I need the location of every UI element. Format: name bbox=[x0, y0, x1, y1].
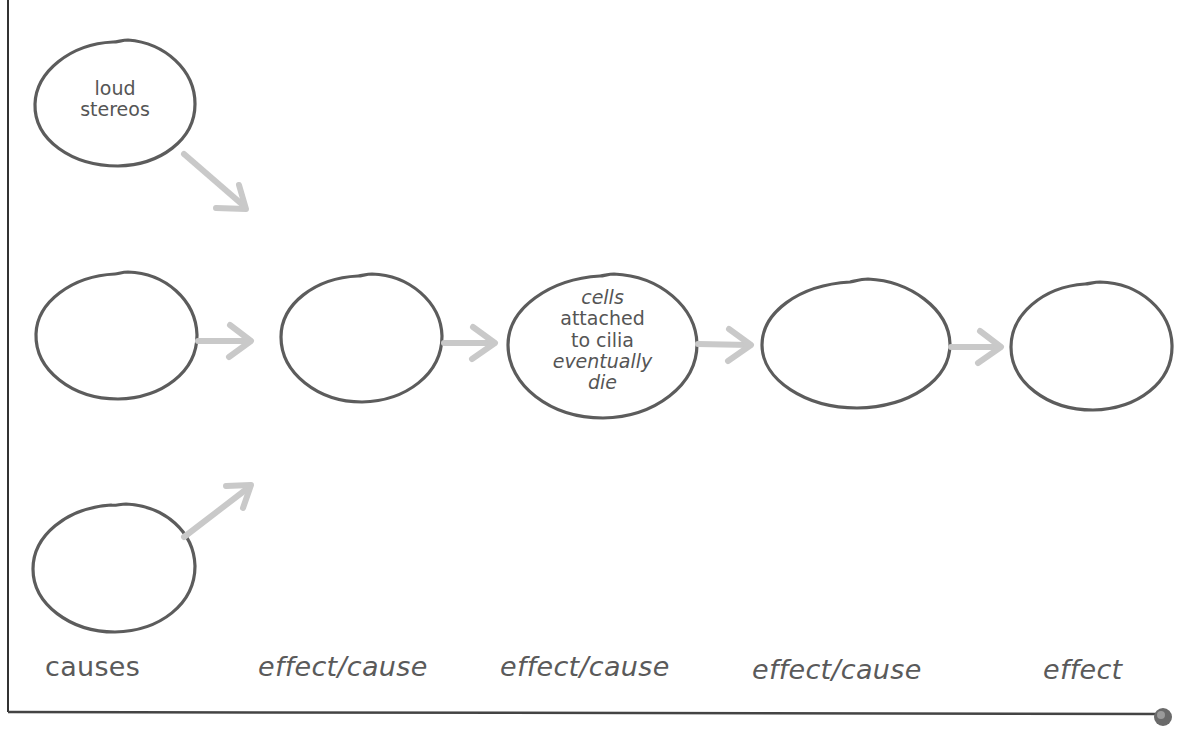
arrow-top-to-effect1 bbox=[184, 154, 244, 206]
node-effect-cause-3 bbox=[762, 279, 950, 408]
column-label-effect-cause-1: effect/cause bbox=[258, 651, 428, 682]
node-effect-cause-2-text: cells attached to cilia eventually die bbox=[520, 287, 685, 393]
node-effect-final bbox=[1011, 282, 1172, 410]
column-label-causes: causes bbox=[45, 651, 140, 682]
node-text-line: loud bbox=[55, 78, 175, 99]
column-label-effect-cause-2: effect/cause bbox=[500, 651, 670, 682]
node-cause-bottom bbox=[33, 504, 195, 632]
page-corner-dot-highlight bbox=[1157, 711, 1165, 719]
node-effect-cause-1 bbox=[281, 274, 442, 402]
column-label-effect-cause-3: effect/cause bbox=[752, 654, 922, 685]
column-label-effect: effect bbox=[1043, 654, 1122, 685]
node-text-line: attached bbox=[520, 308, 685, 329]
node-text-line: die bbox=[520, 372, 685, 393]
node-cause-middle bbox=[36, 272, 197, 399]
node-text-line: stereos bbox=[55, 99, 175, 120]
arrow-bottom-to-effect1 bbox=[184, 488, 248, 537]
node-text-line: cells bbox=[520, 287, 685, 308]
node-text-line: eventually bbox=[520, 351, 685, 372]
arrow-effect2-to-effect3 bbox=[698, 344, 750, 345]
node-cause-top-text: loud stereos bbox=[55, 78, 175, 121]
frame-bottom-border bbox=[8, 712, 1160, 714]
node-text-line: to cilia bbox=[520, 330, 685, 351]
